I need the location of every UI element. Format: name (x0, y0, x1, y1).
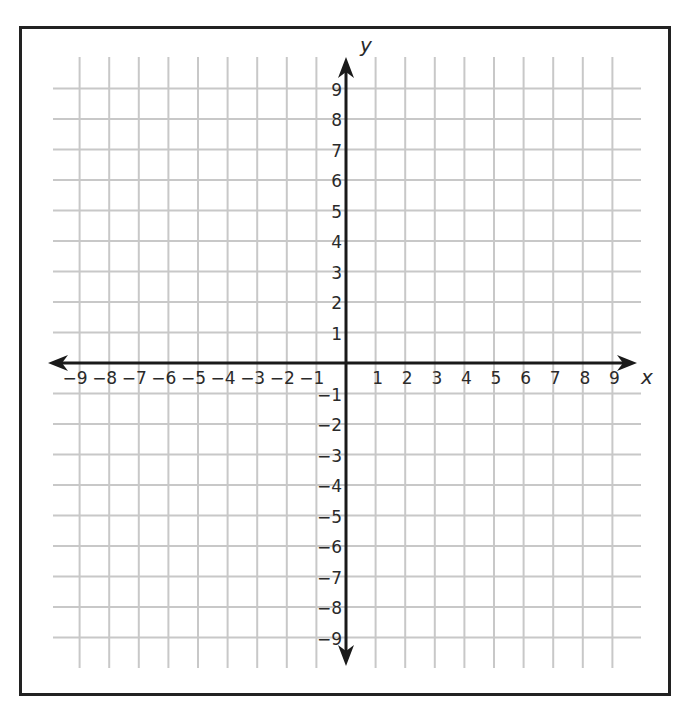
axes (48, 57, 637, 666)
y-tick-label: 6 (331, 171, 342, 191)
y-tick-label: 8 (331, 110, 342, 130)
x-tick-label: 9 (609, 368, 620, 388)
y-tick-label: 2 (331, 293, 342, 313)
x-tick-label: 8 (579, 368, 590, 388)
y-tick-label: −7 (317, 568, 342, 588)
x-tick-label: −9 (63, 368, 88, 388)
y-tick-label: −2 (317, 415, 342, 435)
x-tick-label: −7 (122, 368, 147, 388)
x-tick-label: 3 (431, 368, 442, 388)
y-tick-label: 4 (331, 232, 342, 252)
x-tick-label: −5 (181, 368, 206, 388)
y-tick-label: −6 (317, 537, 342, 557)
x-tick-label: 4 (461, 368, 472, 388)
y-tick-label: 3 (331, 263, 342, 283)
y-tick-label: 7 (331, 141, 342, 161)
y-axis-label: y (359, 33, 373, 57)
x-tick-label: −8 (92, 368, 117, 388)
x-tick-label: −2 (270, 368, 295, 388)
x-tick-label: −4 (211, 368, 236, 388)
x-tick-label: 7 (550, 368, 561, 388)
x-tick-label: −3 (240, 368, 265, 388)
y-tick-label: −8 (317, 598, 342, 618)
x-tick-label: 2 (402, 368, 413, 388)
x-tick-label: 1 (372, 368, 383, 388)
y-tick-label: −9 (317, 629, 342, 649)
x-axis-label: x (640, 365, 653, 389)
x-tick-label: 5 (491, 368, 502, 388)
y-tick-label: 1 (331, 324, 342, 344)
x-tick-label: −6 (151, 368, 176, 388)
y-tick-label: 9 (331, 80, 342, 100)
y-tick-label: −4 (317, 476, 342, 496)
coordinate-plane: −9−8−7−6−5−4−3−2−1123456789 987654321−1−… (0, 0, 696, 723)
x-tick-label: 6 (520, 368, 531, 388)
y-tick-label: −1 (317, 385, 342, 405)
y-tick-label: 5 (331, 202, 342, 222)
y-tick-label: −3 (317, 446, 342, 466)
y-tick-label: −5 (317, 507, 342, 527)
